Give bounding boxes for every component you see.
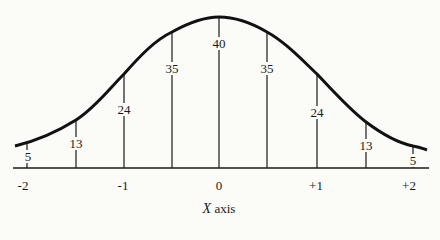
x-axis-variable: X: [203, 201, 212, 216]
x-tick-label: +1: [309, 179, 323, 192]
value-label: 5: [24, 150, 33, 163]
value-label: 5: [409, 154, 418, 167]
x-tick-label: 0: [216, 179, 223, 192]
value-label: 35: [260, 62, 275, 75]
value-label: 13: [359, 139, 374, 152]
value-label: 24: [117, 103, 132, 116]
value-label: 13: [69, 137, 84, 150]
value-label: 35: [165, 62, 180, 75]
value-label: 40: [212, 37, 227, 50]
x-tick-label: -1: [118, 179, 129, 192]
x-axis-title-text: axis: [211, 201, 235, 216]
value-label: 24: [310, 106, 325, 119]
x-tick-label: -2: [18, 179, 29, 192]
x-axis-title: X axis: [203, 201, 236, 217]
x-tick-label: +2: [402, 179, 416, 192]
